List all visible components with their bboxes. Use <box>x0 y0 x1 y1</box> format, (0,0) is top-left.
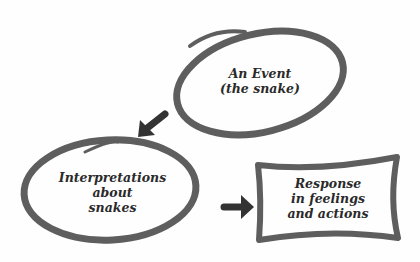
interpretations-label-line: Interpretations <box>55 170 170 185</box>
response-label-line: and actions <box>272 206 384 221</box>
diagram-canvas: An Event (the snake) Interpretations abo… <box>0 0 420 262</box>
interpretations-label-line: snakes <box>55 200 170 215</box>
interpretations-label-line: about <box>55 185 170 200</box>
arrow-event-to-interpretations-icon <box>138 114 165 137</box>
event-label-line: (the snake) <box>210 81 310 96</box>
response-label: Response in feelings and actions <box>272 176 384 221</box>
response-label-line: in feelings <box>272 191 384 206</box>
arrow-interpretations-to-response-icon <box>224 195 254 219</box>
interpretations-label: Interpretations about snakes <box>55 170 170 215</box>
event-label-line: An Event <box>210 66 310 81</box>
event-label: An Event (the snake) <box>210 66 310 96</box>
response-label-line: Response <box>272 176 384 191</box>
diagram-shapes <box>0 0 420 262</box>
